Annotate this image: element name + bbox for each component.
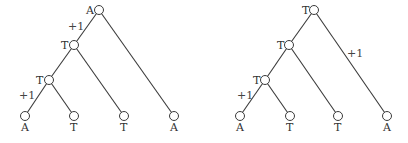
- leaf-label: T: [70, 121, 78, 134]
- internal-label: T: [61, 39, 69, 52]
- root-label: T: [302, 4, 310, 17]
- leaf-label: A: [382, 121, 392, 134]
- internal-label: T: [36, 74, 44, 87]
- internal-node: [285, 41, 294, 50]
- internal-node: [70, 41, 79, 50]
- leaf-node: [21, 112, 30, 121]
- edge-cost-label: +1: [237, 89, 253, 102]
- edge: [74, 45, 124, 116]
- edge-cost-label: +1: [347, 47, 363, 60]
- leaf-node: [383, 112, 392, 121]
- leaf-label: A: [169, 121, 179, 134]
- edge-cost-label: +1: [19, 89, 35, 102]
- leaf-node: [286, 112, 295, 121]
- left-tree: A T T A T T A +1 +1: [19, 4, 179, 134]
- internal-node: [261, 76, 270, 85]
- right-tree: T T T A T T A +1 +1: [235, 4, 392, 134]
- leaf-label: A: [20, 121, 30, 134]
- leaf-node: [236, 112, 245, 121]
- internal-label: T: [277, 39, 285, 52]
- leaf-label: T: [334, 121, 342, 134]
- internal-node: [45, 76, 54, 85]
- edge: [265, 80, 290, 116]
- edge: [289, 45, 338, 116]
- internal-label: T: [253, 74, 261, 87]
- leaf-label: A: [235, 121, 245, 134]
- edge: [99, 10, 174, 116]
- leaf-node: [170, 112, 179, 121]
- leaf-node: [334, 112, 343, 121]
- leaf-label: T: [286, 121, 294, 134]
- root-label: A: [85, 4, 95, 17]
- edge: [314, 10, 387, 116]
- leaf-label: T: [120, 121, 128, 134]
- edge-cost-label: +1: [68, 20, 84, 33]
- tree-diagrams: A T T A T T A +1 +1 T T T A T T A +1 +1: [0, 0, 408, 143]
- root-node: [310, 6, 319, 15]
- root-node: [95, 6, 104, 15]
- edge: [49, 80, 74, 116]
- leaf-node: [70, 112, 79, 121]
- leaf-node: [120, 112, 129, 121]
